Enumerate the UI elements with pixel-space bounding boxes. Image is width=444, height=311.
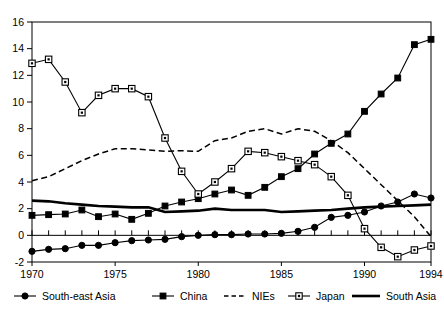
marker-japan-center [347,194,349,196]
marker-south-east-asia [361,209,367,215]
marker-japan-center [81,112,83,114]
y-tick-label: 8 [18,122,24,134]
marker-south-east-asia [62,246,68,252]
marker-china [162,203,168,209]
legend-label: NIEs [252,290,275,302]
marker-japan-center [413,249,415,251]
marker-south-east-asia [328,214,334,220]
marker-china [129,216,135,222]
marker-south-east-asia [262,231,268,237]
marker-china [411,42,417,48]
legend-label: Japan [316,290,345,302]
marker-south-east-asia [295,228,301,234]
marker-japan-center [181,170,183,172]
series-line-japan [32,59,431,256]
marker-south-east-asia [312,224,318,230]
legend-item-china[interactable]: China [152,290,208,302]
marker-china [428,36,434,42]
x-tick-label: 1994 [419,268,443,280]
marker-south-east-asia [278,230,284,236]
marker-china [378,91,384,97]
marker-south-east-asia [129,238,135,244]
marker-japan-center [197,193,199,195]
marker-china [278,174,284,180]
marker-south-east-asia [46,246,52,252]
marker-south-east-asia [162,236,168,242]
marker-china [112,211,118,217]
legend-marker-filled-circle [22,293,28,299]
y-tick-label: 16 [12,16,24,28]
marker-south-east-asia [411,191,417,197]
y-tick-label: 12 [12,69,24,81]
marker-china [345,131,351,137]
marker-japan-center [31,62,33,64]
marker-japan-center [147,96,149,98]
y-tick-label: 10 [12,96,24,108]
series-line-south-asia [32,201,431,212]
series-line-south-east-asia [32,194,431,251]
marker-china [79,207,85,213]
marker-china [46,212,52,218]
x-tick-label: 1985 [270,268,294,280]
chart-figure: -20246810121416197019751980198519901994S… [0,0,444,311]
marker-china [212,191,218,197]
plot-frame [32,22,431,262]
y-tick-label: -2 [15,256,24,268]
x-tick-label: 1990 [353,268,377,280]
legend-item-south-asia[interactable]: South Asia [352,290,436,302]
marker-south-east-asia [428,195,434,201]
marker-japan-center [97,94,99,96]
x-tick-label: 1975 [103,268,127,280]
marker-japan-center [314,164,316,166]
marker-china [96,214,102,220]
marker-japan-center [214,181,216,183]
marker-japan-center [164,137,166,139]
marker-china [262,184,268,190]
legend-marker-open-square-center [298,295,300,297]
marker-china [229,187,235,193]
marker-south-east-asia [212,232,218,238]
marker-china [29,212,35,218]
marker-south-east-asia [95,242,101,248]
y-tick-label: 2 [18,202,24,214]
chart-svg: -20246810121416197019751980198519901994S… [0,0,444,311]
marker-south-east-asia [228,232,234,238]
marker-japan-center [297,160,299,162]
marker-south-east-asia [79,242,85,248]
y-tick-label: 0 [18,229,24,241]
marker-china [312,151,318,157]
marker-japan-center [230,168,232,170]
marker-china [362,108,368,114]
marker-china [62,211,68,217]
marker-japan-center [264,152,266,154]
legend-item-south-east-asia[interactable]: South-east Asia [14,290,116,302]
legend-item-nies[interactable]: NIEs [224,290,275,302]
marker-south-east-asia [345,212,351,218]
marker-south-east-asia [179,234,185,240]
marker-japan-center [131,88,133,90]
marker-china [395,75,401,81]
marker-japan-center [430,245,432,247]
marker-japan-center [397,256,399,258]
series-line-nies [32,129,431,237]
legend-label: South Asia [386,290,436,302]
marker-japan-center [380,246,382,248]
marker-japan-center [330,176,332,178]
marker-south-east-asia [112,240,118,246]
legend-label: China [180,290,208,302]
marker-japan-center [48,58,50,60]
marker-south-east-asia [195,232,201,238]
marker-china [245,192,251,198]
marker-south-east-asia [245,231,251,237]
marker-japan-center [280,156,282,158]
marker-japan-center [114,88,116,90]
y-tick-label: 4 [18,176,24,188]
marker-china [295,166,301,172]
marker-japan-center [64,81,66,83]
marker-south-east-asia [29,248,35,254]
x-tick-label: 1970 [20,268,44,280]
marker-south-east-asia [145,237,151,243]
marker-china [145,210,151,216]
legend-item-japan[interactable]: Japan [288,290,345,302]
marker-china [179,199,185,205]
